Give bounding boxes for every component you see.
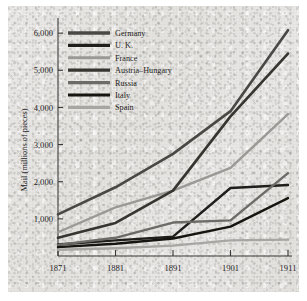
x-axis-tick-labels: 18711881189119011911 xyxy=(49,263,296,273)
x-tick-label: 1891 xyxy=(164,263,181,273)
y-axis-title: Mail (millions of pieces) xyxy=(20,108,29,191)
y-tick-label: 2,000 xyxy=(34,177,53,187)
legend-item-germany: Germany xyxy=(68,29,146,38)
line-chart-svg: 1,0002,0003,0004,0005,0006,000 187118811… xyxy=(0,0,307,301)
legend-label-spain: Spain xyxy=(115,103,134,112)
x-tick-label: 1911 xyxy=(280,263,297,273)
legend-label-austria-hungary: Austria–Hungary xyxy=(115,66,173,75)
legend-label-italy: Italy xyxy=(115,91,131,100)
chart-figure: 1,0002,0003,0004,0005,0006,000 187118811… xyxy=(0,0,307,301)
legend-item-austria-hungary: Austria–Hungary xyxy=(68,66,173,75)
legend-label-france: France xyxy=(115,54,138,63)
legend-label-russia: Russia xyxy=(115,79,137,88)
y-axis-tick-labels: 1,0002,0003,0004,0005,0006,000 xyxy=(34,28,53,224)
legend-label-germany: Germany xyxy=(115,29,146,38)
y-tick-label: 5,000 xyxy=(34,65,53,75)
legend-item-russia: Russia xyxy=(68,79,137,88)
y-tick-label: 3,000 xyxy=(34,140,53,150)
y-axis-ticks xyxy=(58,33,63,219)
legend-label-u-k: U. K. xyxy=(115,41,133,50)
x-tick-label: 1901 xyxy=(222,263,239,273)
x-tick-label: 1871 xyxy=(49,263,66,273)
y-tick-label: 1,000 xyxy=(34,214,53,224)
legend-item-spain: Spain xyxy=(68,103,134,112)
chart-legend: GermanyU. K.FranceAustria–HungaryRussiaI… xyxy=(68,29,173,112)
legend-item-france: France xyxy=(68,54,138,63)
y-tick-label: 6,000 xyxy=(34,28,53,38)
series-line-russia xyxy=(58,173,288,245)
x-tick-label: 1881 xyxy=(107,263,124,273)
legend-item-u-k: U. K. xyxy=(68,41,133,50)
legend-item-italy: Italy xyxy=(68,91,131,100)
x-axis-ticks xyxy=(58,250,288,256)
y-tick-label: 4,000 xyxy=(34,103,53,113)
data-series-group xyxy=(58,30,288,250)
chart-axes xyxy=(58,18,292,256)
